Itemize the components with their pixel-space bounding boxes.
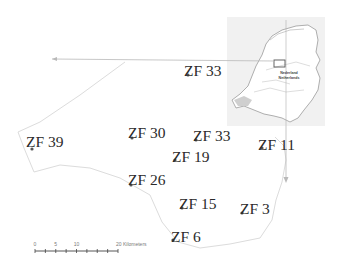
- inset-title-nederland: Nederland: [280, 71, 298, 75]
- station-label: ZF 26: [128, 171, 166, 188]
- station-label: ZF 33: [184, 62, 222, 79]
- scale-label-20: 20 Kilometers: [116, 241, 147, 247]
- station-label: ZF 15: [179, 195, 217, 212]
- arrow-head-south-icon: [284, 177, 289, 183]
- station-zf19[interactable]: ZF 19: [172, 148, 210, 165]
- inset-title-netherlands: Netherlands: [279, 76, 300, 80]
- station-zf11[interactable]: ZF 11: [258, 136, 295, 153]
- station-label: ZF 33: [193, 127, 231, 144]
- station-zf30[interactable]: ZF 30: [128, 124, 166, 141]
- station-label: ZF 30: [128, 124, 166, 141]
- study-area-map: Nederland Netherlands ZF 33 ZF 39 ZF 30 …: [0, 0, 345, 270]
- inset-map: Nederland Netherlands: [227, 17, 325, 126]
- station-zf3[interactable]: ZF 3: [240, 200, 270, 217]
- station-zf39[interactable]: ZF 39: [26, 133, 64, 151]
- arrow-head-west-icon: [52, 57, 57, 61]
- station-zf6[interactable]: ZF 6: [171, 228, 201, 245]
- station-label: ZF 11: [258, 136, 295, 153]
- scale-label-5: 5: [54, 241, 57, 247]
- station-zf26[interactable]: ZF 26: [128, 171, 166, 188]
- scale-label-10: 10: [74, 241, 80, 247]
- station-zf15[interactable]: ZF 15: [179, 195, 217, 212]
- station-label: ZF 19: [172, 148, 210, 165]
- station-zf33-north[interactable]: ZF 33: [184, 62, 222, 79]
- scale-bar: 0 5 10 20 Kilometers: [34, 241, 147, 253]
- scale-label-0: 0: [34, 241, 37, 247]
- station-label: ZF 3: [240, 200, 270, 217]
- station-label: ZF 6: [171, 228, 201, 245]
- station-zf33-south[interactable]: ZF 33: [193, 127, 231, 144]
- station-label: ZF 39: [26, 133, 64, 150]
